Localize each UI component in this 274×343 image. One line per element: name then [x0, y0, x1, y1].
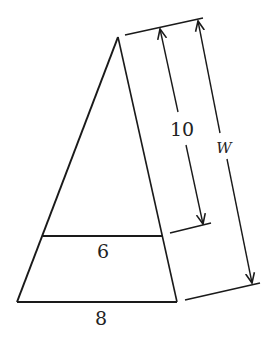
diagram-canvas: 10 W 6 8	[0, 0, 274, 343]
label-short-height: 10	[170, 118, 194, 140]
dimension-10-arrow-up	[160, 29, 178, 112]
label-base: 8	[95, 307, 107, 329]
dimension-10-arrow-down	[186, 145, 203, 224]
label-mid-segment: 6	[97, 240, 109, 262]
mid-extension-line	[170, 223, 211, 233]
dimension-w-arrow-down	[227, 159, 252, 283]
triangle-diagram: 10 W 6 8	[0, 0, 274, 343]
top-extension-line	[125, 18, 203, 35]
dimension-w-arrow-up	[198, 21, 220, 133]
triangle-right-side	[118, 37, 177, 302]
label-full-height: W	[216, 139, 233, 157]
base-extension-line	[185, 283, 260, 300]
triangle-left-side	[17, 37, 118, 302]
